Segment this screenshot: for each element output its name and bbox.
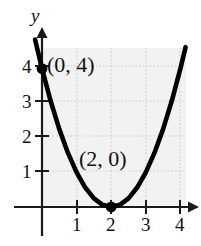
point-marker-2-0 [106, 202, 117, 213]
y-tick-label-2: 2 [22, 127, 32, 146]
annotation-point-0-4: (0, 4) [47, 54, 95, 76]
annotation-point-2-0: (2, 0) [79, 148, 127, 170]
x-tick-label-1: 1 [72, 215, 82, 234]
x-tick-label-3: 3 [141, 215, 151, 234]
graph-figure: y 4 3 2 1 1 2 3 4 (0, 4) (2, 0) [0, 0, 201, 246]
x-axis-arrow-icon [188, 202, 199, 213]
x-tick-label-4: 4 [175, 215, 185, 234]
y-tick-label-4: 4 [22, 57, 32, 76]
y-tick-label-1: 1 [22, 162, 32, 181]
y-tick-label-3: 3 [22, 92, 32, 111]
x-tick-label-2: 2 [106, 215, 116, 234]
coordinate-plane-svg [0, 0, 201, 246]
point-marker-0-4 [37, 63, 48, 74]
y-axis-label: y [31, 6, 39, 25]
y-axis-arrow-icon [37, 27, 48, 38]
